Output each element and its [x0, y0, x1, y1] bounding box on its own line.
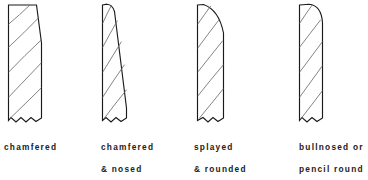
caption-chamfered-nosed-line1: chamfered	[101, 142, 154, 153]
caption-splayed-rounded-line1: splayed	[194, 142, 234, 153]
profile-shape-bullnosed	[300, 4, 323, 122]
caption-bullnosed-line2: pencil round	[299, 164, 364, 175]
moulding-profiles-figure: chamfered chamfered splayed bullnosed or…	[0, 0, 368, 180]
caption-row-line1: chamfered chamfered splayed bullnosed or	[0, 142, 368, 159]
caption-row-line2: & nosed & rounded pencil round	[0, 164, 368, 180]
profile-shape-chamfered	[9, 5, 42, 122]
profile-shape-splayed-rounded	[198, 5, 224, 123]
profiles-drawing	[0, 0, 368, 132]
caption-chamfered-nosed-line2: & nosed	[101, 164, 142, 175]
caption-bullnosed-line1: bullnosed or	[299, 142, 364, 153]
caption-splayed-rounded-line2: & rounded	[194, 164, 247, 175]
profile-shape-chamfered-nosed	[103, 4, 127, 122]
caption-chamfered-line1: chamfered	[4, 142, 57, 153]
